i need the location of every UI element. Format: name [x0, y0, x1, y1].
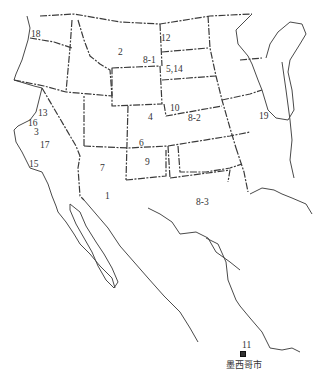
city-label-mexico-city: 墨西哥市: [226, 361, 262, 370]
region-label-10: 10: [170, 104, 180, 114]
region-label-3: 3: [34, 128, 39, 138]
region-label-4: 4: [148, 113, 153, 123]
region-label-13: 13: [38, 109, 48, 119]
region-label-9: 9: [145, 158, 150, 168]
region-label-7: 7: [100, 164, 105, 174]
region-label-6: 6: [139, 139, 144, 149]
region-label-8-1: 8-1: [143, 56, 156, 66]
region-label-8-3: 8-3: [196, 198, 209, 208]
great-lakes-shore: [236, 14, 306, 120]
baja-peninsula: [70, 204, 118, 288]
region-label-18: 18: [31, 30, 41, 40]
region-label-2: 2: [118, 48, 123, 58]
region-label-5-14: 5,14: [166, 65, 183, 75]
region-label-17: 17: [40, 141, 50, 151]
region-label-12: 12: [161, 34, 171, 44]
region-label-15: 15: [29, 160, 39, 170]
map-canvas: [0, 0, 328, 378]
city-square-marker-icon: [240, 351, 246, 357]
region-label-19: 19: [259, 112, 269, 122]
region-label-1: 1: [105, 192, 110, 202]
region-label-11: 11: [242, 341, 251, 351]
region-label-8-2: 8-2: [188, 114, 201, 124]
us-mexico-river-border: [148, 208, 240, 270]
